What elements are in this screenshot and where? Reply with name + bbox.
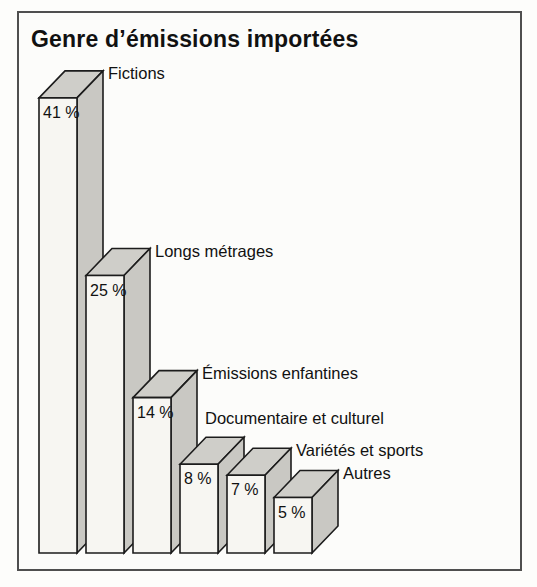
bar-front-face-fictions [39,98,77,553]
category-label-fictions: Fictions [108,64,165,82]
value-label-emissions-enfantines: 14 % [137,404,173,421]
category-label-autres: Autres [343,464,391,482]
value-label-documentaire-et-culturel: 8 % [184,470,212,487]
value-label-varietes-et-sports: 7 % [231,481,259,498]
category-label-longs-metrages: Longs métrages [155,242,273,260]
category-label-emissions-enfantines: Émissions enfantines [202,364,358,382]
value-label-autres: 5 % [278,504,306,521]
bar-front-face-longs-metrages [86,276,124,554]
value-label-fictions: 41 % [43,104,79,121]
category-label-varietes-et-sports: Variétés et sports [296,441,423,459]
category-label-documentaire-et-culturel: Documentaire et culturel [205,409,384,427]
bar-front-face-emissions-enfantines [133,398,171,553]
value-label-longs-metrages: 25 % [90,282,126,299]
bar-chart-3d: 41 %Fictions25 %Longs métrages14 %Émissi… [0,0,537,587]
